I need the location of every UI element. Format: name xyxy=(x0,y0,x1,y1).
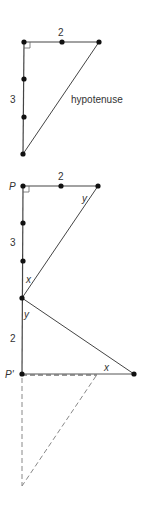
midpoint-dot xyxy=(58,183,63,188)
vertex-p-label: P xyxy=(9,181,16,192)
angle-y-top-label: y xyxy=(81,193,88,204)
angle-x-bottom-label: x xyxy=(103,362,110,373)
vertex-dot xyxy=(21,39,26,44)
angle-x-mid-label: x xyxy=(25,274,32,285)
dashed-diagonal-line xyxy=(22,376,96,486)
lower-left-side-label: 2 xyxy=(10,333,16,344)
vertex-dot xyxy=(20,151,25,156)
top-side-label: 2 xyxy=(58,171,64,182)
rotated-hypotenuse-line xyxy=(22,298,134,374)
left-side-line xyxy=(23,42,24,154)
vertex-dot xyxy=(131,371,136,376)
tick-dot xyxy=(20,258,25,263)
vertex-dot xyxy=(95,183,100,188)
angle-y-mid-label: y xyxy=(23,309,30,320)
diagram-canvas: 2 3 hypotenuse P 2 y 3 x y 2 P' x xyxy=(0,0,144,520)
bottom-figure: P 2 y 3 x y 2 P' x xyxy=(5,171,137,486)
vertex-p-dot xyxy=(20,183,25,188)
hypotenuse-label: hypotenuse xyxy=(71,94,123,105)
top-triangle: 2 3 hypotenuse xyxy=(10,27,123,157)
vertex-p-prime-dot xyxy=(19,371,24,376)
vertex-p-prime-label: P' xyxy=(5,369,15,380)
top-side-label: 2 xyxy=(58,27,64,38)
vertex-dot xyxy=(96,39,101,44)
midpoint-dot xyxy=(59,39,64,44)
tick-dot xyxy=(20,220,25,225)
tick-dot xyxy=(21,114,26,119)
left-vertical-line xyxy=(22,186,23,374)
tick-dot xyxy=(21,76,26,81)
left-side-label: 3 xyxy=(10,94,16,105)
vertex-dot xyxy=(19,295,24,300)
left-side-label: 3 xyxy=(10,237,16,248)
